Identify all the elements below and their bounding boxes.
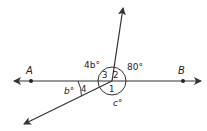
angle-diagram: A B 3 2 1 4 4b° 80° b° c° xyxy=(0,0,207,131)
angle-4-number: 4 xyxy=(81,84,86,94)
angle-3-measure: 4b° xyxy=(84,60,100,70)
angle-2-number: 2 xyxy=(113,70,118,80)
angle-3-number: 3 xyxy=(102,70,107,80)
point-a-label: A xyxy=(25,65,33,76)
angle-1-measure: c° xyxy=(113,98,122,108)
angle-1-number: 1 xyxy=(109,84,114,94)
point-b xyxy=(181,79,185,83)
point-a xyxy=(29,79,33,83)
angle-2-measure: 80° xyxy=(127,62,143,72)
angle-4-measure: b° xyxy=(64,86,74,96)
point-b-label: B xyxy=(178,65,185,76)
